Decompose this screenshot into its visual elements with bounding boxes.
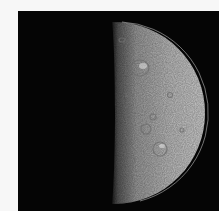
moon-disc [112,20,210,206]
space-background [18,11,219,211]
moon-image [18,11,219,211]
